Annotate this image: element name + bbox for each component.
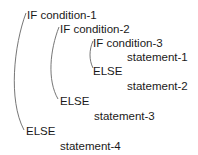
line-else-2: ELSE	[60, 95, 89, 108]
line-else-1: ELSE	[26, 125, 55, 138]
line-if-condition-2: IF condition-2	[60, 23, 130, 36]
bracket-if2-else	[51, 27, 59, 99]
line-statement-1: statement-1	[127, 51, 188, 64]
nested-if-diagram: IF condition-1 IF condition-2 IF conditi…	[0, 0, 198, 155]
line-else-3: ELSE	[93, 65, 122, 78]
bracket-if1-else	[14, 13, 26, 130]
line-statement-2: statement-2	[127, 80, 188, 93]
line-if-condition-1: IF condition-1	[27, 9, 97, 22]
line-statement-3: statement-3	[94, 110, 155, 123]
line-if-condition-3: IF condition-3	[93, 37, 163, 50]
line-statement-4: statement-4	[60, 140, 121, 153]
